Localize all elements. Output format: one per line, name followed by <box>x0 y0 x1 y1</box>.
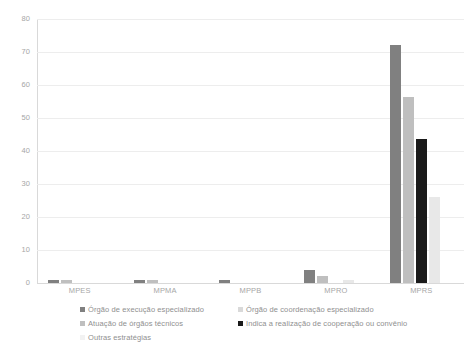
bar <box>304 270 315 283</box>
x-axis-tick-label: MPES <box>37 286 122 296</box>
legend-swatch-icon <box>238 307 243 312</box>
legend-item-label: Outras estratégias <box>88 333 151 342</box>
bar <box>403 97 414 283</box>
bar <box>134 280 145 283</box>
legend-swatch-icon <box>238 321 243 326</box>
y-axis-tick-label: 30 <box>2 180 30 188</box>
legend-item[interactable]: Indica a realização de cooperação ou con… <box>238 317 407 329</box>
bar <box>147 280 158 283</box>
legend-swatch-icon <box>80 335 85 340</box>
bar <box>429 197 440 283</box>
y-axis-tick-label: 40 <box>2 147 30 155</box>
legend-item-label: Atuação de órgãos técnicos <box>88 319 183 328</box>
bar <box>343 280 354 283</box>
bar-group <box>37 19 122 283</box>
y-axis-tick-label: 70 <box>2 48 30 56</box>
bar-chart: 01020304050607080 MPESMPMAMPPBMPROMPRS Ó… <box>0 0 476 359</box>
bar <box>416 139 427 283</box>
legend-item-label: Órgão de execução especializado <box>88 305 204 314</box>
legend-item[interactable]: Órgão de execução especializado <box>80 303 204 315</box>
legend-swatch-icon <box>80 321 85 326</box>
bar <box>317 276 328 283</box>
bar-group <box>379 19 464 283</box>
bars-layer <box>37 19 464 283</box>
legend-item[interactable]: Outras estratégias <box>80 331 204 343</box>
legend-item-label: Indica a realização de cooperação ou con… <box>246 319 407 328</box>
legend-column-left: Órgão de execução especializadoAtuação d… <box>80 303 204 345</box>
x-axis-tick-label: MPPB <box>208 286 293 296</box>
bar-group <box>208 19 293 283</box>
y-axis-tick-label: 60 <box>2 81 30 89</box>
legend-column-right: Órgão de coordenação especializadoIndica… <box>238 303 407 331</box>
legend-item[interactable]: Órgão de coordenação especializado <box>238 303 407 315</box>
bar <box>48 280 59 283</box>
legend-item-label: Órgão de coordenação especializado <box>246 305 374 314</box>
bar <box>219 280 230 283</box>
x-axis-tick-label: MPMA <box>122 286 207 296</box>
y-axis-tick-label: 0 <box>2 279 30 287</box>
axis-baseline <box>37 283 464 284</box>
bar-group <box>293 19 378 283</box>
x-axis-tick-labels: MPESMPMAMPPBMPROMPRS <box>37 286 464 298</box>
bar <box>390 45 401 283</box>
legend-item[interactable]: Atuação de órgãos técnicos <box>80 317 204 329</box>
x-axis-tick-label: MPRS <box>379 286 464 296</box>
bar <box>61 280 72 283</box>
legend-swatch-icon <box>80 307 85 312</box>
y-axis-tick-label: 20 <box>2 213 30 221</box>
x-axis-tick-label: MPRO <box>293 286 378 296</box>
y-axis-tick-label: 10 <box>2 246 30 254</box>
y-axis-tick-label: 50 <box>2 114 30 122</box>
bar-group <box>122 19 207 283</box>
y-axis-tick-label: 80 <box>2 15 30 23</box>
chart-legend: Órgão de execução especializadoAtuação d… <box>0 303 476 349</box>
